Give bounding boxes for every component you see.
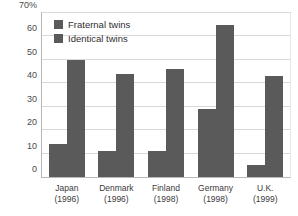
bar-group: [198, 13, 234, 177]
x-tick-country: Japan: [55, 183, 78, 193]
x-tick-year: (1998): [141, 194, 191, 205]
legend-swatch-fraternal: [54, 20, 63, 29]
y-tick-label: 50: [0, 47, 37, 56]
x-tick-label: Finland(1998): [141, 183, 191, 205]
x-tick-country: U.K.: [257, 183, 274, 193]
legend-label-identical: Identical twins: [68, 34, 128, 44]
bar-identical-germany: [216, 25, 234, 177]
bar-fraternal-denmark: [98, 151, 116, 177]
bar-identical-finland: [166, 69, 184, 177]
x-tick-label: Germany(1998): [191, 183, 241, 205]
chart-legend: Fraternal twins Identical twins: [54, 19, 130, 47]
x-tick-label: U.K.(1999): [240, 183, 290, 205]
x-tick-country: Germany: [198, 183, 233, 193]
y-tick-label: 0: [0, 165, 37, 174]
legend-item-identical: Identical twins: [54, 33, 130, 44]
y-tick-label: 60: [0, 24, 37, 33]
x-tick-country: Finland: [152, 183, 180, 193]
y-tick-label: 20: [0, 118, 37, 127]
bar-identical-uk: [265, 76, 283, 177]
bar-fraternal-germany: [198, 109, 216, 177]
bar-fraternal-uk: [247, 165, 265, 177]
bar-identical-denmark: [116, 74, 134, 177]
bar-chart: 010203040506070% Fraternal twins Identic…: [0, 0, 298, 216]
y-tick-label: 30: [0, 94, 37, 103]
x-tick-year: (1996): [42, 194, 92, 205]
bar-group: [247, 13, 283, 177]
bar-fraternal-japan: [49, 144, 67, 177]
x-tick-year: (1999): [240, 194, 290, 205]
bar-identical-japan: [67, 60, 85, 177]
x-tick-label: Denmark(1996): [92, 183, 142, 205]
x-tick-label: Japan(1996): [42, 183, 92, 205]
bar-group: [148, 13, 184, 177]
x-tick-year: (1998): [191, 194, 241, 205]
legend-swatch-identical: [54, 34, 63, 43]
x-axis: Japan(1996)Denmark(1996)Finland(1998)Ger…: [42, 183, 290, 213]
y-axis: 010203040506070%: [0, 12, 37, 178]
y-tick-label: 40: [0, 71, 37, 80]
x-tick-year: (1996): [92, 194, 142, 205]
legend-label-fraternal: Fraternal twins: [68, 20, 130, 30]
y-tick-label: 10: [0, 141, 37, 150]
y-tick-label: 70%: [0, 1, 37, 10]
x-tick-country: Denmark: [99, 183, 133, 193]
bar-fraternal-finland: [148, 151, 166, 177]
legend-item-fraternal: Fraternal twins: [54, 19, 130, 30]
